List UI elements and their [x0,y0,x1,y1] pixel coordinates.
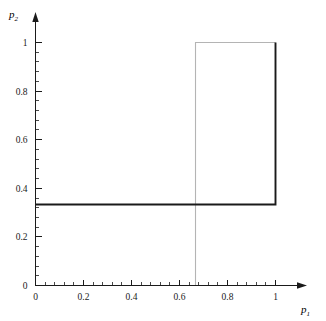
x-tick-label: 0.8 [222,292,234,302]
series-best-response-1 [196,43,276,286]
y-tick-label: 0.8 [16,87,28,97]
y-tick-label: 0.4 [16,184,28,194]
best-response-diagram: 00.20.40.60.8100.20.40.60.81 [0,0,326,321]
x-tick-label: 0.2 [78,292,90,302]
y-axis-label-sub: 2 [15,15,19,23]
chart-canvas: 00.20.40.60.8100.20.40.60.81 p2 p1 [0,0,326,321]
y-axis-arrow-icon [32,12,38,22]
x-tick-label: 0.6 [174,292,186,302]
y-axis-label: p2 [9,4,18,22]
y-tick-label: 1 [23,38,28,48]
y-tick-label: 0.6 [16,135,28,145]
x-tick-label: 0 [33,292,38,302]
y-tick-label: 0.2 [16,232,28,242]
x-tick-label: 1 [273,292,278,302]
y-tick-label: 0 [23,281,28,291]
x-axis-label: p1 [301,299,310,317]
x-axis-label-sub: 1 [307,310,311,318]
x-tick-label: 0.4 [126,292,138,302]
y-axis-label-base: p [9,8,15,20]
x-axis-label-base: p [301,303,307,315]
series-best-response-2 [36,43,276,205]
x-axis-arrow-icon [297,282,307,288]
